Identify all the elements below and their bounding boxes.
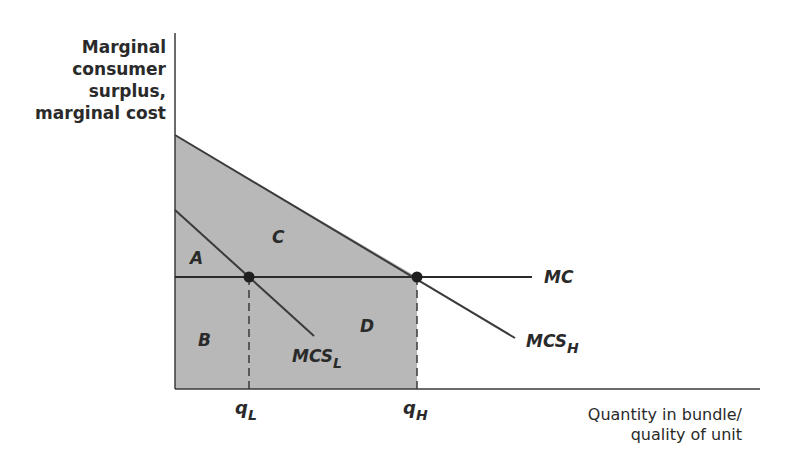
region-b-label: B <box>198 330 211 350</box>
q-low-tick-label: qL <box>235 397 257 423</box>
mc-label: MC <box>544 267 574 287</box>
y-axis-label-line-4: marginal cost <box>35 102 166 124</box>
q-high-intersection-dot <box>412 272 423 283</box>
region-a-label: A <box>188 248 203 268</box>
region-d-label: D <box>360 316 374 336</box>
y-axis-label-line-3: surplus, <box>35 80 166 102</box>
x-axis-label: Quantity in bundle/ quality of unit <box>588 405 742 445</box>
x-axis-label-line-1: Quantity in bundle/ <box>588 405 742 425</box>
y-axis-label-line-2: consumer <box>35 58 166 80</box>
y-axis-label-line-1: Marginal <box>35 36 166 58</box>
q-high-tick-label: qH <box>403 397 428 423</box>
region-c-label: C <box>272 227 285 247</box>
bundling-diagram: A C B D MC MCSH MCSL qL qH Marginal cons… <box>0 0 792 469</box>
x-axis-label-line-2: quality of unit <box>588 425 742 445</box>
q-low-intersection-dot <box>244 272 255 283</box>
mcs-high-label: MCSH <box>526 331 579 356</box>
y-axis-label: Marginal consumer surplus, marginal cost <box>35 36 166 124</box>
